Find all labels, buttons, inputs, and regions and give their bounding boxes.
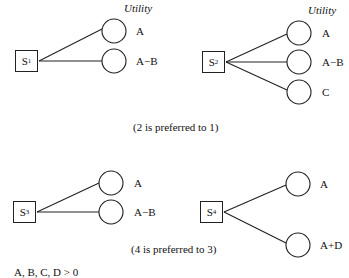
outcome-label: A [320,178,328,190]
footnote: A, B, C, D > 0 [14,266,78,278]
outcome-label: C [322,86,329,98]
outcome-label: A−B [134,206,155,218]
caption-top: (2 is preferred to 1) [133,121,219,133]
utility-header-2: Utility [308,4,336,16]
outcome-label: A−B [322,56,343,68]
state-box-s3: S3 [13,201,36,223]
caption-bottom: (4 is preferred to 3) [131,243,217,255]
outcome-label: A [136,25,144,37]
state-box-s4: S4 [200,201,223,223]
utility-header-1: Utility [124,2,152,14]
state-box-s1: S1 [15,50,38,72]
outcome-label: A [322,27,330,39]
outcome-label: A [134,177,142,189]
outcome-label: A−B [136,55,157,67]
outcome-label: A+D [320,239,342,251]
state-box-s2: S2 [202,51,225,73]
